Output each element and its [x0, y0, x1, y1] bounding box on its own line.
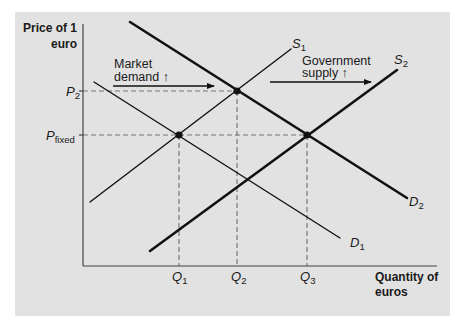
price-label-pfixed-main: P [46, 128, 55, 143]
curve-label-d1-sub: 1 [359, 241, 364, 252]
equilibrium-point-q1 [175, 131, 182, 138]
curve-label-d1-main: D [350, 235, 359, 250]
price-label-p2-main: P [66, 84, 75, 99]
quantity-label-q2-main: Q [231, 269, 241, 284]
equilibrium-point-q3 [303, 131, 310, 138]
curve-label-s1-sub: 1 [301, 42, 306, 53]
y-axis-label-line2: euro [51, 37, 77, 51]
quantity-label-q2-sub: 2 [241, 275, 246, 286]
quantity-label-q3-main: Q [300, 269, 310, 284]
market-demand-label-line1: Market [114, 57, 153, 71]
market-demand-label-line2: demand ↑ [114, 70, 169, 84]
x-axis-label-line1: Quantity of [375, 270, 439, 284]
curve-label-d2-sub: 2 [418, 200, 423, 211]
equilibrium-point-q2 [233, 87, 240, 94]
curve-label-s1-main: S [292, 36, 301, 51]
supply-demand-diagram: Price of 1 euro Quantity of euros P2 Pfi… [0, 0, 462, 316]
curve-label-s2-sub: 2 [403, 58, 408, 69]
price-label-p2-sub: 2 [75, 90, 80, 101]
price-label-pfixed-sub: fixed [55, 134, 75, 145]
x-axis-label-line2: euros [375, 285, 408, 299]
curve-label-d2-main: D [409, 194, 418, 209]
curve-label-s2-main: S [394, 52, 403, 67]
government-supply-label-line2: supply ↑ [302, 66, 348, 80]
y-axis-label-line1: Price of 1 [23, 21, 77, 35]
quantity-label-q1-sub: 1 [182, 275, 187, 286]
quantity-label-q1-main: Q [172, 269, 182, 284]
diagram-figure: Price of 1 euro Quantity of euros P2 Pfi… [0, 0, 462, 316]
quantity-label-q3-sub: 3 [310, 275, 315, 286]
